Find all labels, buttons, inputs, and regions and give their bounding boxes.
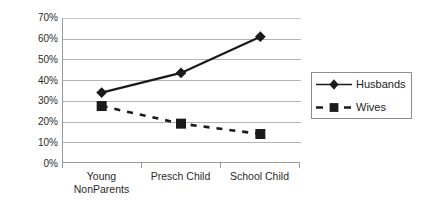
x-axis-label-line1: Presch Child — [141, 170, 220, 183]
y-axis-tick-label: 70% — [2, 13, 58, 23]
x-axis-label-line1: School Child — [220, 170, 299, 183]
legend-label: Husbands — [356, 79, 406, 90]
legend-item-wives[interactable]: Wives — [312, 96, 411, 119]
diamond-marker-icon — [312, 73, 356, 96]
x-axis-tick — [62, 163, 63, 168]
line-chart: 70% 60% 50% 40% 30% 20% 10% 0% Young Non… — [0, 0, 422, 209]
plot-area — [62, 18, 300, 163]
gridline — [63, 80, 301, 81]
gridline — [63, 122, 301, 123]
chart-legend: Husbands Wives — [311, 72, 412, 119]
y-axis-tick-label: 0% — [2, 159, 58, 169]
gridline — [63, 18, 301, 19]
x-axis-label-presch-child: Presch Child — [141, 170, 220, 183]
y-axis-tick-label: 60% — [2, 34, 58, 44]
x-axis-label-line2: NonParents — [62, 183, 141, 196]
gridline — [63, 59, 301, 60]
gridline — [63, 142, 301, 143]
y-axis-tick-label: 40% — [2, 76, 58, 86]
x-axis-label-line1: Young — [62, 170, 141, 183]
x-axis-tick — [299, 163, 300, 168]
gridline — [63, 101, 301, 102]
x-axis-tick — [141, 163, 142, 168]
square-marker-icon — [312, 96, 356, 119]
y-axis: 70% 60% 50% 40% 30% 20% 10% 0% — [0, 0, 58, 209]
x-axis-tick — [220, 163, 221, 168]
gridline — [63, 39, 301, 40]
x-axis-label-young-nonparents: Young NonParents — [62, 170, 141, 196]
x-axis-label-school-child: School Child — [220, 170, 299, 183]
y-axis-tick-label: 50% — [2, 55, 58, 65]
y-axis-tick-label: 30% — [2, 96, 58, 106]
y-axis-tick-label: 10% — [2, 138, 58, 148]
legend-item-husbands[interactable]: Husbands — [312, 73, 411, 96]
y-axis-tick-label: 20% — [2, 117, 58, 127]
legend-label: Wives — [356, 102, 386, 113]
